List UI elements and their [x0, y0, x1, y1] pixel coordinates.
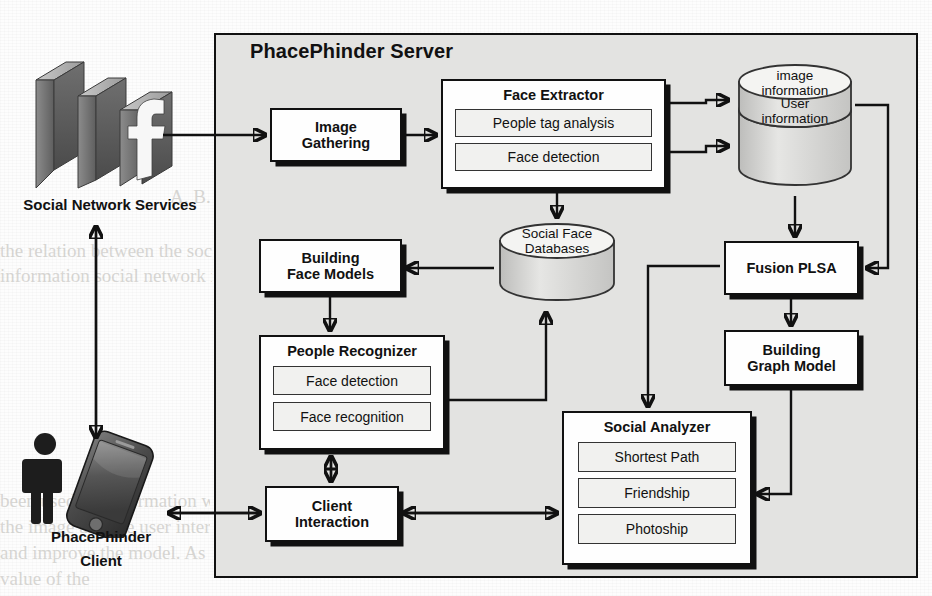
client-interaction-title-line2: Interaction: [295, 514, 369, 530]
face-extractor-title: Face Extractor: [455, 87, 652, 103]
face-extractor-sub-face-detection[interactable]: Face detection: [455, 143, 652, 171]
image-information-label-line1: image: [777, 68, 814, 83]
person-and-smartphone-icon: [16, 428, 176, 538]
box-image-gathering[interactable]: Image Gathering: [270, 108, 402, 162]
face-extractor-sub-people-tag-analysis[interactable]: People tag analysis: [455, 109, 652, 137]
social-face-databases-label-line2: Databases: [525, 241, 590, 256]
server-panel-title: PhacePhinder Server: [250, 40, 453, 63]
social-analyzer-sub-photoship[interactable]: Photoship: [578, 514, 736, 544]
phacephinder-client-label-line1: PhacePhinder: [6, 528, 196, 546]
people-recognizer-title: People Recognizer: [273, 343, 431, 359]
datastore-image-user-information[interactable]: image information User information: [733, 64, 857, 192]
image-gathering-title-line2: Gathering: [302, 135, 370, 151]
datastore-social-face-databases[interactable]: Social Face Databases: [494, 221, 620, 307]
image-gathering-title-line1: Image: [315, 119, 357, 135]
building-graph-model-title-line1: Building: [763, 342, 821, 358]
social-analyzer-sub-shortest-path[interactable]: Shortest Path: [578, 442, 736, 472]
box-building-face-models[interactable]: Building Face Models: [259, 239, 402, 293]
social-analyzer-sub-friendship[interactable]: Friendship: [578, 478, 736, 508]
phacephinder-client-label-line2: Client: [6, 552, 196, 570]
people-recognizer-sub-face-recognition[interactable]: Face recognition: [273, 402, 431, 431]
social-face-databases-label-line1: Social Face: [522, 226, 593, 241]
user-information-label-line2: information: [762, 111, 829, 126]
background-text-2: information social network is a set of c…: [0, 265, 212, 287]
box-client-interaction[interactable]: Client Interaction: [265, 486, 399, 542]
box-building-graph-model[interactable]: Building Graph Model: [724, 330, 859, 386]
building-face-models-title-line2: Face Models: [287, 266, 374, 282]
social-analyzer-title: Social Analyzer: [578, 419, 736, 435]
client-interaction-title-line1: Client: [312, 498, 352, 514]
box-fusion-plsa[interactable]: Fusion PLSA: [724, 241, 859, 295]
box-people-recognizer[interactable]: People Recognizer Face detection Face re…: [259, 335, 445, 450]
diagram-canvas: A. B. C. D. E. F. G. H. I. J. K. L. M. t…: [0, 0, 932, 596]
facebook-3d-logo-icon: [22, 40, 200, 190]
background-text-1: the relation between the social network …: [0, 240, 212, 262]
people-recognizer-sub-face-detection[interactable]: Face detection: [273, 366, 431, 395]
box-face-extractor[interactable]: Face Extractor People tag analysis Face …: [441, 79, 666, 189]
social-network-services-label: Social Network Services: [10, 196, 210, 214]
user-information-label-line1: User: [781, 96, 810, 111]
fusion-plsa-title: Fusion PLSA: [726, 260, 857, 276]
box-social-analyzer[interactable]: Social Analyzer Shortest Path Friendship…: [562, 411, 752, 565]
background-text-6: value of the: [0, 568, 160, 590]
building-graph-model-title-line2: Graph Model: [747, 358, 836, 374]
building-face-models-title-line1: Building: [302, 250, 360, 266]
